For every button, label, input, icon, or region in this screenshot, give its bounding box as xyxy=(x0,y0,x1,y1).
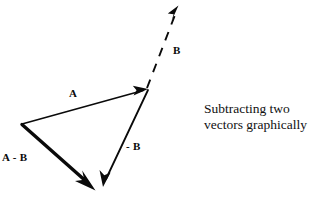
vector-subtraction-diagram xyxy=(0,0,323,198)
vector-b-label: B xyxy=(173,45,181,56)
vector-a-minus-b-label: A - B xyxy=(2,152,27,163)
figure-caption: Subtracting two vectors graphically xyxy=(204,101,322,133)
vector-neg-b-label: - B xyxy=(126,141,141,152)
diagram-background xyxy=(0,0,323,198)
vector-a-label: A xyxy=(69,88,77,99)
